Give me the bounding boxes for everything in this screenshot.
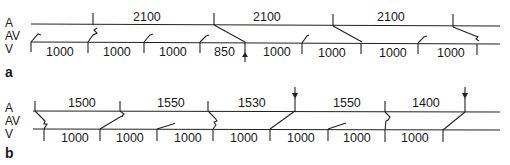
collision-fusion xyxy=(35,111,47,129)
ventricular-interval: 1000 xyxy=(287,131,315,145)
antegrade-fusion xyxy=(453,27,479,41)
atrial-line xyxy=(31,24,500,26)
antegrade-conduction xyxy=(214,25,245,42)
ventricular-interval: 1000 xyxy=(318,46,346,60)
ventricular-interval: 1000 xyxy=(174,131,202,145)
ventricular-interval: 1000 xyxy=(159,45,187,59)
retrograde-blocked xyxy=(157,123,175,129)
retrograde-blocked xyxy=(200,35,209,42)
panel-b: A AV V 1500 xyxy=(5,87,500,161)
ventricular-interval: 1000 xyxy=(437,46,465,60)
ventricular-interval: 1000 xyxy=(103,45,131,59)
ventricular-interval: 1000 xyxy=(116,131,144,145)
atrial-interval: 2100 xyxy=(253,10,281,24)
row-label-a: A xyxy=(5,101,13,115)
row-label-v: V xyxy=(5,127,13,141)
panel-a: A AV V 2100 2100 xyxy=(5,10,500,80)
ventricular-interval: 1000 xyxy=(46,45,74,59)
ventricular-interval: 1000 xyxy=(230,131,258,145)
ventricular-interval: 1000 xyxy=(61,131,89,145)
retrograde-blocked xyxy=(418,36,427,43)
atrial-interval: 1550 xyxy=(333,96,361,110)
panel-label-b: b xyxy=(5,145,14,161)
panel-label-a: a xyxy=(5,64,13,80)
atrial-interval: 1500 xyxy=(68,96,96,110)
ladder-diagram: A AV V 2100 2100 xyxy=(0,0,510,165)
retrograde-blocked xyxy=(31,34,41,42)
row-label-av: AV xyxy=(5,29,20,43)
ventricular-line xyxy=(31,42,500,44)
collision-fusion xyxy=(208,111,217,129)
ventricular-interval: 1000 xyxy=(401,131,429,145)
atrial-interval: 2100 xyxy=(377,10,405,24)
atrial-interval: 2100 xyxy=(133,10,161,24)
retrograde-blocked xyxy=(302,35,309,43)
atrial-interval: 1530 xyxy=(238,96,266,110)
antegrade-conduction xyxy=(270,111,295,129)
ventricular-interval: 1000 xyxy=(343,131,371,145)
antegrade-conduction xyxy=(333,26,362,42)
ventricular-interval: 1000 xyxy=(379,46,407,60)
antegrade-conduction xyxy=(443,112,465,130)
atrial-interval: 1550 xyxy=(157,96,185,110)
arrow-up-icon xyxy=(242,52,248,57)
retrograde-blocked xyxy=(328,123,346,129)
retrograde-blocked xyxy=(144,34,153,42)
row-label-av: AV xyxy=(5,114,20,128)
row-label-a: A xyxy=(5,16,13,30)
retrograde-blocked xyxy=(100,116,123,129)
retrograde-concealed xyxy=(88,28,97,42)
ventricular-interval: 850 xyxy=(214,45,235,59)
row-label-v: V xyxy=(5,42,13,56)
atrial-interval: 1400 xyxy=(412,96,440,110)
collision-fusion xyxy=(385,112,390,130)
ventricular-interval: 1000 xyxy=(263,45,291,59)
ventricular-line xyxy=(33,129,500,130)
atrial-line xyxy=(33,111,500,112)
